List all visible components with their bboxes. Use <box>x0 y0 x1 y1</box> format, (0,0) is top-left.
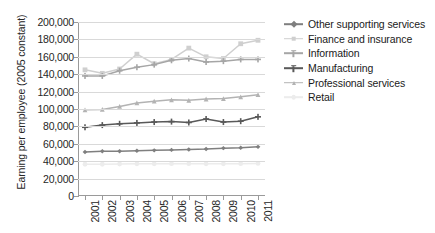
legend-item-label: Information <box>308 47 359 59</box>
data-point <box>135 149 140 153</box>
y-tick-mark <box>74 179 78 180</box>
series-manufacturing <box>82 114 261 130</box>
gridline <box>78 22 265 23</box>
gridline <box>78 74 265 75</box>
data-point <box>255 114 261 120</box>
data-point <box>83 67 88 72</box>
x-axis-tick-label: 2005 <box>158 200 170 223</box>
data-point <box>186 147 191 151</box>
data-point <box>100 149 105 153</box>
legend-item-label: Retail <box>308 91 334 103</box>
data-point <box>186 46 191 51</box>
y-tick-mark <box>74 57 78 58</box>
legend-marker-icon <box>284 19 303 29</box>
data-point <box>169 148 174 152</box>
y-axis-tick-label: 140,000 <box>16 69 74 80</box>
legend-item-other-supporting-services[interactable]: Other supporting services <box>284 17 435 32</box>
y-axis-tick-labels: 200,000180,000160,000140,000120,000100,0… <box>16 0 74 233</box>
data-point <box>100 162 105 167</box>
series-other-supporting-services <box>83 145 261 155</box>
legend-item-finance-and-insurance[interactable]: Finance and insurance <box>284 32 435 47</box>
plot-area <box>78 22 265 196</box>
x-axis-tick-label: 2009 <box>227 200 239 223</box>
legend-item-label: Other supporting services <box>308 18 425 30</box>
y-axis-tick-label: 100,000 <box>16 104 74 115</box>
y-axis-tick-label: 180,000 <box>16 34 74 45</box>
data-point <box>204 147 209 151</box>
legend-marker-icon <box>284 63 303 73</box>
legend-item-label: Professional services <box>308 77 405 89</box>
data-point <box>151 119 157 125</box>
gridline <box>78 109 265 110</box>
x-axis-tick-label: 2001 <box>89 200 101 223</box>
data-point <box>83 150 88 154</box>
x-axis-tick-label: 2004 <box>141 200 153 223</box>
gridline <box>78 161 265 162</box>
gridline <box>78 179 265 180</box>
gridline <box>78 57 265 58</box>
y-tick-mark <box>74 22 78 23</box>
x-axis-tick-label: 2003 <box>124 200 136 223</box>
y-tick-mark <box>74 161 78 162</box>
gridline <box>78 144 265 145</box>
y-axis-tick-label: 20,000 <box>16 173 74 184</box>
data-point <box>117 162 122 167</box>
data-point <box>134 120 140 126</box>
data-point <box>203 59 209 65</box>
x-axis-tick-label: 2010 <box>245 200 257 223</box>
x-axis-tick-label: 2011 <box>262 200 274 222</box>
y-axis-tick-label: 120,000 <box>16 86 74 97</box>
series-information <box>82 56 261 79</box>
legend: Other supporting servicesFinance and ins… <box>284 17 435 105</box>
legend-item-information[interactable]: Information <box>284 46 435 61</box>
data-point <box>186 119 192 125</box>
data-point <box>256 145 261 149</box>
legend-item-professional-services[interactable]: Professional services <box>284 75 435 90</box>
legend-marker-icon <box>284 78 303 88</box>
y-axis-tick-label: 0 <box>16 191 74 202</box>
data-point <box>238 41 243 46</box>
data-point <box>238 146 243 150</box>
gridline <box>78 39 265 40</box>
line-chart: Earning per employee (2005 constant) 200… <box>0 0 435 233</box>
data-point <box>238 118 244 124</box>
legend-item-retail[interactable]: Retail <box>284 90 435 105</box>
y-axis-tick-label: 80,000 <box>16 121 74 132</box>
y-tick-mark <box>74 126 78 127</box>
x-axis-tick-labels: 2001200220032004200520062007200820092010… <box>78 200 265 233</box>
x-axis-tick-label: 2002 <box>106 200 118 223</box>
y-tick-mark <box>74 196 78 197</box>
data-point <box>220 119 226 125</box>
y-axis-tick-label: 200,000 <box>16 17 74 28</box>
y-tick-mark <box>74 92 78 93</box>
x-axis-tick-label: 2008 <box>210 200 222 223</box>
data-point <box>152 148 157 152</box>
x-axis-tick-label: 2007 <box>193 200 205 223</box>
legend-marker-icon <box>284 92 303 102</box>
legend-marker-icon <box>284 34 303 44</box>
data-point <box>134 64 140 70</box>
legend-item-label: Finance and insurance <box>308 33 412 45</box>
data-point <box>203 116 209 122</box>
gridline <box>78 92 265 93</box>
legend-marker-icon <box>284 48 303 58</box>
y-axis-tick-label: 160,000 <box>16 52 74 63</box>
y-tick-mark <box>74 109 78 110</box>
y-tick-mark <box>74 74 78 75</box>
data-point <box>83 162 88 167</box>
y-tick-mark <box>74 144 78 145</box>
y-axis-tick-label: 40,000 <box>16 156 74 167</box>
gridline <box>78 126 265 127</box>
legend-item-manufacturing[interactable]: Manufacturing <box>284 61 435 76</box>
y-axis-tick-label: 60,000 <box>16 139 74 150</box>
data-point <box>221 146 226 150</box>
x-axis-tick-label: 2006 <box>176 200 188 223</box>
legend-item-label: Manufacturing <box>308 62 373 74</box>
y-tick-mark <box>74 39 78 40</box>
data-point <box>169 119 175 125</box>
data-point <box>117 149 122 153</box>
